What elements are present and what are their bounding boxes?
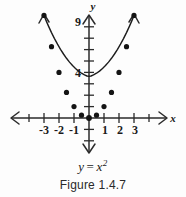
x-tick-label-neg2: -2 xyxy=(54,123,64,137)
data-point xyxy=(124,44,129,49)
x-tick-label-neg1: -1 xyxy=(69,123,79,137)
data-point xyxy=(94,113,99,118)
x-tick-label-1: 1 xyxy=(102,123,108,137)
equation-label: y=x2 xyxy=(0,158,186,175)
equation-lhs: y xyxy=(78,159,84,174)
figure-caption: Figure 1.4.7 xyxy=(0,178,186,192)
graph-plot-area: -3 -2 -1 1 2 3 4 9 x y xyxy=(0,0,186,165)
x-axis-label: x xyxy=(169,112,176,124)
data-point xyxy=(49,44,54,49)
equation-equals: = xyxy=(85,159,97,174)
data-point xyxy=(86,115,92,121)
data-point xyxy=(116,70,121,75)
figure-container: -3 -2 -1 1 2 3 4 9 x y y=x2 Figure 1.4.7 xyxy=(0,0,186,197)
data-point xyxy=(109,90,114,95)
data-point xyxy=(79,113,84,118)
equation-exponent: 2 xyxy=(103,158,108,168)
data-point xyxy=(56,70,61,75)
data-point xyxy=(41,13,46,18)
data-point xyxy=(101,104,106,109)
y-tick-label-4: 4 xyxy=(75,66,81,80)
x-tick-label-3: 3 xyxy=(132,123,138,137)
y-axis-label: y xyxy=(89,0,96,12)
data-point xyxy=(64,90,69,95)
data-point xyxy=(71,104,76,109)
x-tick-label-neg3: -3 xyxy=(39,123,49,137)
data-point xyxy=(131,13,136,18)
y-tick-label-9: 9 xyxy=(75,15,81,29)
x-tick-label-2: 2 xyxy=(117,123,123,137)
